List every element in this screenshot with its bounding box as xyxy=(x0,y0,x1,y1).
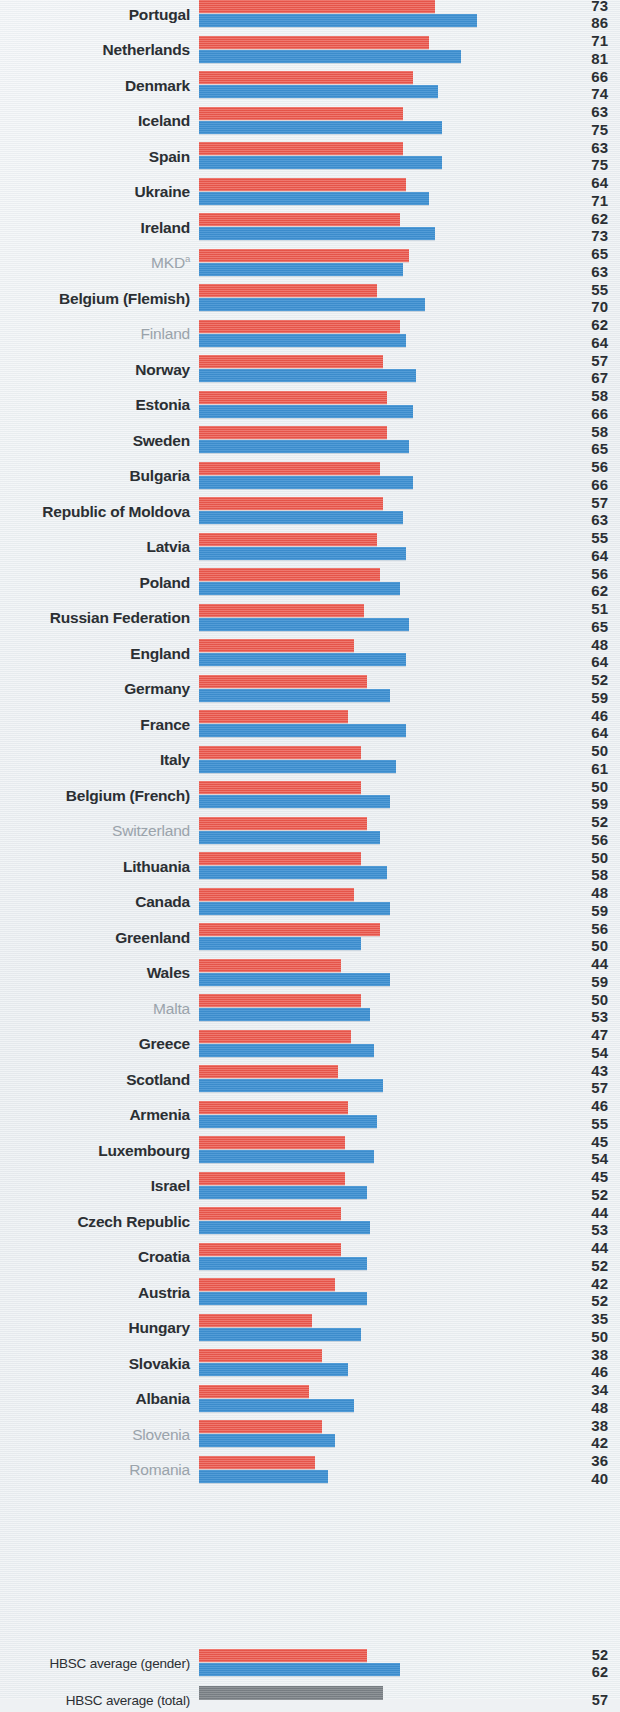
value-girls: 48 xyxy=(548,1399,608,1417)
value-boys: 47 xyxy=(548,1027,608,1045)
country-label: Netherlands xyxy=(0,42,190,58)
bar-boys xyxy=(199,675,367,688)
country-row: Luxembourg4554 xyxy=(0,1133,620,1169)
value-boys: 50 xyxy=(548,849,608,867)
country-label: Austria xyxy=(0,1285,190,1301)
country-label: Scotland xyxy=(0,1072,190,1088)
bar-girls xyxy=(199,582,400,595)
value-girls: 59 xyxy=(548,796,608,814)
bar-boys xyxy=(199,0,435,13)
country-label: Switzerland xyxy=(0,823,190,839)
bar-boys xyxy=(199,1101,348,1114)
value-boys: 52 xyxy=(548,672,608,690)
value-labels: 5570 xyxy=(548,281,608,316)
value-girls: 53 xyxy=(548,1222,608,1240)
value-boys: 34 xyxy=(548,1382,608,1400)
bar-boys xyxy=(199,746,361,759)
country-row: Armenia4655 xyxy=(0,1098,620,1134)
value-girls: 63 xyxy=(548,512,608,530)
value-labels: 4453 xyxy=(548,1204,608,1239)
country-label: Albania xyxy=(0,1391,190,1407)
country-label: Belgium (Flemish) xyxy=(0,291,190,307)
bar-girls xyxy=(199,511,403,524)
bar-girls xyxy=(199,14,477,27)
value-girls: 86 xyxy=(548,15,608,33)
value-girls: 52 xyxy=(548,1293,608,1311)
bar-girls xyxy=(199,1115,377,1128)
bar-girls xyxy=(199,1079,383,1092)
value-boys: 52 xyxy=(548,1647,608,1664)
bar-boys xyxy=(199,959,341,972)
value-boys: 66 xyxy=(548,68,608,86)
value-boys: 55 xyxy=(548,530,608,548)
country-row: France4664 xyxy=(0,707,620,743)
value-boys: 44 xyxy=(548,1204,608,1222)
country-row: Croatia4452 xyxy=(0,1240,620,1276)
value-boys: 73 xyxy=(548,0,608,15)
country-row: Denmark6674 xyxy=(0,68,620,104)
bar-girls xyxy=(199,831,380,844)
bar-boys xyxy=(199,923,380,936)
bar-girls xyxy=(199,1470,328,1483)
value-labels: 4859 xyxy=(548,885,608,920)
value-labels: 6471 xyxy=(548,175,608,210)
value-labels: 5058 xyxy=(548,849,608,884)
country-row: Canada4859 xyxy=(0,885,620,921)
value-boys: 50 xyxy=(548,743,608,761)
value-boys: 62 xyxy=(548,210,608,228)
country-row: Belgium (Flemish)5570 xyxy=(0,281,620,317)
bar-boys xyxy=(199,1278,335,1291)
bar-girls xyxy=(199,1257,367,1270)
bar-boys xyxy=(199,568,380,581)
value-labels: 4864 xyxy=(548,636,608,671)
value-girls: 70 xyxy=(548,299,608,317)
value-boys: 43 xyxy=(548,1062,608,1080)
bar-girls xyxy=(199,795,390,808)
country-row: Austria4252 xyxy=(0,1275,620,1311)
bar-girls xyxy=(199,227,435,240)
country-row: Norway5767 xyxy=(0,352,620,388)
value-labels: 4452 xyxy=(548,1240,608,1275)
value-girls: 50 xyxy=(548,938,608,956)
value-girls: 61 xyxy=(548,760,608,778)
bar-boys xyxy=(199,1065,338,1078)
bar-boys xyxy=(199,639,354,652)
country-row: Czech Republic4453 xyxy=(0,1204,620,1240)
value-labels: 4655 xyxy=(548,1098,608,1133)
bar-boys xyxy=(199,1314,312,1327)
country-row: Wales4459 xyxy=(0,956,620,992)
bar-girls xyxy=(199,547,406,560)
value-labels: 7181 xyxy=(548,33,608,68)
country-label: Armenia xyxy=(0,1107,190,1123)
value-girls: 64 xyxy=(548,725,608,743)
value-labels: 5666 xyxy=(548,459,608,494)
value-total: 57 xyxy=(548,1692,608,1709)
bar-girls xyxy=(199,902,390,915)
bar-boys xyxy=(199,462,380,475)
country-label: Bulgaria xyxy=(0,468,190,484)
bar-boys xyxy=(199,1136,345,1149)
bar-girls xyxy=(199,1663,400,1676)
value-labels: 4754 xyxy=(548,1027,608,1062)
bar-boys xyxy=(199,249,409,262)
value-labels: 6674 xyxy=(548,68,608,103)
average-row: HBSC average (gender)5262 xyxy=(0,1646,620,1682)
value-labels: 4664 xyxy=(548,707,608,742)
value-girls: 64 xyxy=(548,334,608,352)
country-row: Ukraine6471 xyxy=(0,175,620,211)
value-girls: 53 xyxy=(548,1009,608,1027)
value-boys: 52 xyxy=(548,814,608,832)
country-label: Wales xyxy=(0,965,190,981)
value-girls: 64 xyxy=(548,547,608,565)
bar-girls xyxy=(199,866,387,879)
bar-girls xyxy=(199,724,406,737)
country-label: Luxembourg xyxy=(0,1143,190,1159)
bar-girls xyxy=(199,1044,374,1057)
value-labels: 57 xyxy=(548,1692,608,1709)
country-row: Sweden5865 xyxy=(0,423,620,459)
country-row: Latvia5564 xyxy=(0,530,620,566)
value-labels: 3448 xyxy=(548,1382,608,1417)
value-boys: 44 xyxy=(548,1240,608,1258)
value-boys: 56 xyxy=(548,565,608,583)
value-labels: 7386 xyxy=(548,0,608,32)
